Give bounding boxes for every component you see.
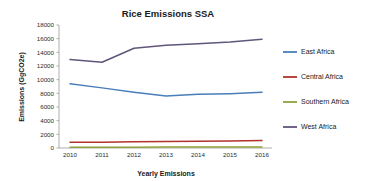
y-tick-label: 12000 bbox=[37, 62, 55, 69]
legend-label: Central Africa bbox=[301, 73, 343, 80]
chart-legend: East AfricaCentral AfricaSouthern Africa… bbox=[283, 48, 349, 130]
series-line-central-africa bbox=[70, 140, 262, 142]
legend-label: Southern Africa bbox=[301, 98, 349, 105]
y-tick-label: 18000 bbox=[37, 21, 55, 28]
y-tick-label: 8000 bbox=[40, 90, 54, 97]
x-tick-label: 2011 bbox=[95, 151, 109, 158]
x-tick-label: 2013 bbox=[159, 151, 173, 158]
x-axis-tick-labels: 2010201120122013201420152016 bbox=[63, 151, 269, 158]
series-line-west-africa bbox=[70, 39, 262, 62]
y-tick-label: 6000 bbox=[40, 103, 54, 110]
y-axis-tick-labels: 0200040006000800010000120001400016000180… bbox=[37, 21, 55, 151]
x-tick-label: 2015 bbox=[223, 151, 237, 158]
legend-label: East Africa bbox=[301, 48, 335, 55]
y-tick-label: 4000 bbox=[40, 117, 54, 124]
x-tick-label: 2012 bbox=[127, 151, 141, 158]
y-tick-label: 10000 bbox=[37, 76, 55, 83]
rice-emissions-chart: Rice Emissions SSA Emissions (GgCO2e) Ye… bbox=[0, 0, 369, 181]
y-tick-label: 14000 bbox=[37, 49, 55, 56]
series-line-east-africa bbox=[70, 84, 262, 96]
series-lines-group bbox=[70, 39, 262, 147]
legend-label: West Africa bbox=[301, 123, 336, 130]
y-tick-label: 0 bbox=[51, 144, 55, 151]
x-tick-label: 2016 bbox=[255, 151, 269, 158]
y-tick-label: 16000 bbox=[37, 35, 55, 42]
x-axis-title: Yearly Emissions bbox=[137, 170, 195, 178]
y-axis-title: Emissions (GgCO2e) bbox=[18, 52, 26, 122]
x-tick-label: 2010 bbox=[63, 151, 77, 158]
chart-canvas: Rice Emissions SSA Emissions (GgCO2e) Ye… bbox=[0, 0, 369, 181]
chart-title: Rice Emissions SSA bbox=[122, 8, 215, 19]
y-tick-label: 2000 bbox=[40, 131, 54, 138]
x-tick-label: 2014 bbox=[191, 151, 205, 158]
